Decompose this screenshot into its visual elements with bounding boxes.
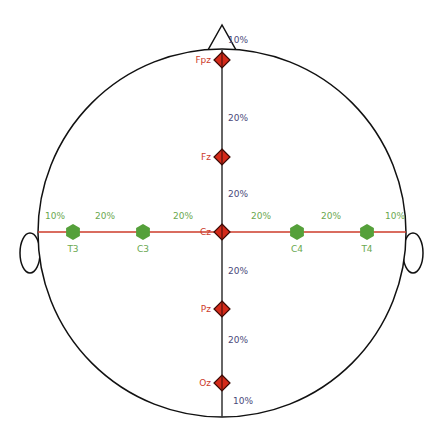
midline-percent-label: 20% — [228, 335, 248, 345]
electrode-label: C3 — [137, 244, 149, 254]
midline-percent-label: 10% — [228, 35, 248, 45]
eeg-head-diagram: FpzFzCzPzOz T3C3C4T4 10%20%20%20%20%10% … — [0, 0, 438, 443]
coronal-percent-label: 20% — [321, 211, 341, 221]
coronal-percent-label: 20% — [95, 211, 115, 221]
coronal-percent-label: 20% — [251, 211, 271, 221]
electrode-label: Cz — [200, 227, 211, 237]
midline-percent-label: 20% — [228, 189, 248, 199]
midline-percent-label: 10% — [233, 396, 253, 406]
left-ear — [20, 233, 40, 273]
midline-percent-label: 20% — [228, 266, 248, 276]
midline-percent-label: 20% — [228, 113, 248, 123]
electrode-label: Oz — [199, 378, 211, 388]
electrode-label: T4 — [360, 244, 372, 254]
electrode-label: Pz — [201, 304, 211, 314]
electrode-label: C4 — [291, 244, 303, 254]
coronal-percent-label: 10% — [45, 211, 65, 221]
electrode-label: Fpz — [195, 55, 211, 65]
coronal-percent-label: 10% — [385, 211, 405, 221]
coronal-percent-label: 20% — [173, 211, 193, 221]
electrode-label: Fz — [201, 152, 211, 162]
electrode-label: T3 — [66, 244, 78, 254]
